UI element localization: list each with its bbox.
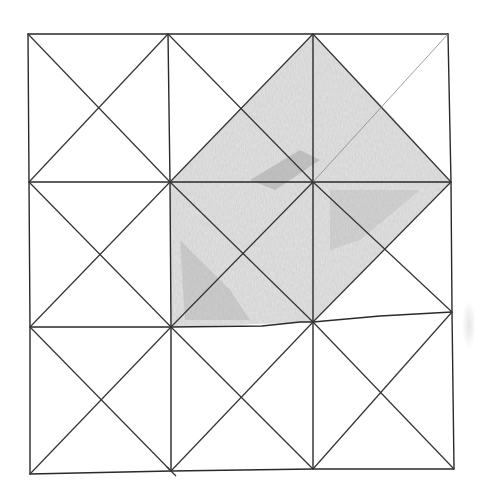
diagonal-r2c2-a — [313, 322, 454, 469]
grid-sketch — [0, 0, 481, 503]
diagonal-r2c1-b — [171, 322, 313, 471]
diagonal-r2c1-a — [171, 327, 313, 469]
horizontal-line-3 — [30, 469, 454, 474]
vertical-line-3 — [448, 34, 454, 469]
vertical-line-1 — [168, 34, 171, 471]
vertical-line-0 — [28, 34, 30, 474]
shaded-region — [170, 34, 451, 327]
